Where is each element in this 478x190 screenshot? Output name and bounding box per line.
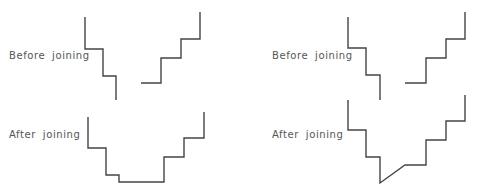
right-before-ascending-stair — [405, 12, 465, 83]
left-after-joined-polyline — [88, 112, 204, 182]
joining-drawing — [0, 0, 478, 190]
right-after-joined-polyline — [348, 95, 465, 183]
left-before-descending-stair — [85, 17, 116, 100]
left-before-ascending-stair — [141, 12, 200, 83]
right-before-descending-stair — [348, 17, 380, 100]
